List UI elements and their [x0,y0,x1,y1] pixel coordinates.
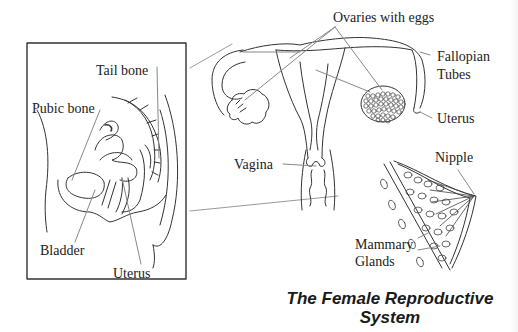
title-line-1: The Female Reproductive [270,289,510,308]
label-nipple: Nipple [435,150,473,165]
label-uterus-side: Uterus [113,266,150,281]
label-mammary: Mammary [355,237,413,252]
page-edge-shadow [510,0,518,332]
diagram-title: The Female Reproductive System [270,289,510,327]
label-vagina: Vagina [234,157,273,172]
title-line-2: System [270,308,510,327]
diagram-canvas: Tail bone Pubic bone Bladder Uterus Ovar… [0,0,518,332]
label-glands: Glands [355,254,395,269]
label-pubic-bone: Pubic bone [32,101,95,116]
label-fallopian: Fallopian [437,49,490,64]
label-uterus-front: Uterus [437,111,474,126]
label-ovaries-with-eggs: Ovaries with eggs [333,10,434,25]
label-tail-bone: Tail bone [96,63,148,78]
label-bladder: Bladder [40,243,84,258]
label-tubes: Tubes [437,67,471,82]
